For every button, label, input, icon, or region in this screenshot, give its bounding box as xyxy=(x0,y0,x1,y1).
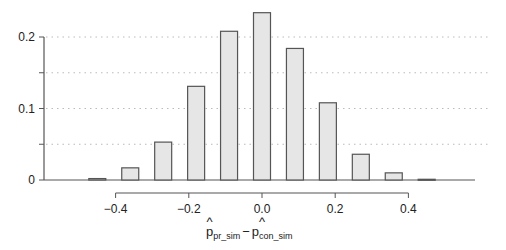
x-tick-label: 0.2 xyxy=(327,202,344,216)
x-tick-label: −0.2 xyxy=(177,202,201,216)
xlabel-base2: p xyxy=(252,224,259,239)
histogram-bar xyxy=(254,13,271,180)
x-tick-label: −0.4 xyxy=(104,202,128,216)
xlabel-hat1: ^ xyxy=(207,214,214,229)
histogram-bar xyxy=(418,179,435,180)
bars xyxy=(89,13,435,181)
histogram-bar xyxy=(221,31,238,180)
y-tick-label: 0.1 xyxy=(18,102,35,116)
xlabel-sub2: con_sim xyxy=(259,231,293,241)
y-axis: 00.10.2 xyxy=(18,30,44,187)
histogram-bar xyxy=(385,173,402,180)
x-axis-title: ppr_sim−pcon_sim ^ ^ xyxy=(206,214,293,241)
histogram-bar xyxy=(352,154,369,180)
xlabel-sub1: pr_sim xyxy=(213,231,240,241)
histogram-bar xyxy=(286,48,303,180)
histogram-bar xyxy=(89,179,106,180)
x-tick-label: 0.4 xyxy=(400,202,417,216)
histogram-chart: 00.10.2 −0.4−0.20.00.20.4 ppr_sim−pcon_s… xyxy=(0,0,506,250)
histogram-bar xyxy=(122,168,139,180)
y-tick-label: 0 xyxy=(28,173,35,187)
x-axis: −0.4−0.20.00.20.4 xyxy=(104,193,417,216)
histogram-bar xyxy=(188,86,205,180)
xlabel-hat2: ^ xyxy=(259,214,266,229)
histogram-bar xyxy=(155,142,172,180)
y-tick-label: 0.2 xyxy=(18,30,35,44)
histogram-bar xyxy=(319,103,336,180)
xlabel-minus: − xyxy=(242,224,250,239)
svg-text:ppr_sim−pcon_sim: ppr_sim−pcon_sim xyxy=(206,224,293,241)
